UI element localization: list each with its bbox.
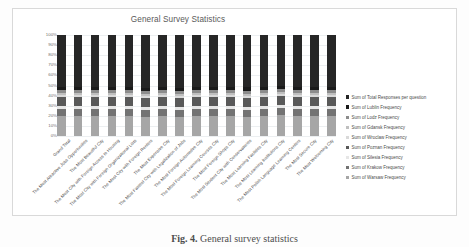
- bar-column[interactable]: [243, 35, 252, 136]
- figure-caption-label: Fig. 4.: [171, 233, 197, 244]
- bar-column[interactable]: [158, 35, 167, 136]
- bar-segment: [209, 116, 218, 136]
- bar-column[interactable]: [209, 35, 218, 136]
- bar-segment: [125, 116, 134, 136]
- legend-item[interactable]: Sum of Lodz Frequency: [346, 112, 458, 122]
- bar-segment: [243, 110, 252, 117]
- bar-segment: [260, 109, 269, 116]
- bar-column[interactable]: [293, 35, 302, 136]
- bar-column[interactable]: [74, 35, 83, 136]
- bar-segment: [158, 97, 167, 106]
- bar-segment: [260, 116, 269, 136]
- bar-segment: [158, 109, 167, 116]
- bar-column[interactable]: [108, 35, 117, 136]
- bar-segment: [57, 116, 66, 136]
- bar-segment: [108, 109, 117, 116]
- bar-segment: [192, 109, 201, 116]
- bar-segment: [125, 109, 134, 116]
- bar-segment: [260, 35, 269, 87]
- y-axis-tick: 100%: [46, 32, 57, 37]
- bar-segment: [293, 116, 302, 136]
- chart-legend: Sum of Total Responses per questionSum o…: [346, 92, 458, 183]
- bar-segment: [158, 35, 167, 87]
- bar-segment: [91, 35, 100, 87]
- bar-segment: [226, 109, 235, 116]
- bar-segment: [74, 116, 83, 136]
- legend-swatch-icon: [346, 176, 349, 179]
- bar-segment: [209, 109, 218, 116]
- legend-label: Sum of Warsaw Frequency: [352, 175, 406, 180]
- bar-segment: [243, 98, 252, 107]
- legend-label: Sum of Total Responses per question: [352, 95, 427, 100]
- bar-column[interactable]: [141, 35, 150, 136]
- bar-segment: [141, 98, 150, 107]
- legend-item[interactable]: Sum of Wroclaw Frequency: [346, 132, 458, 142]
- bar-segment: [327, 116, 336, 136]
- bar-segment: [327, 35, 336, 87]
- legend-swatch-icon: [346, 126, 349, 129]
- bar-segment: [260, 97, 269, 106]
- bar-segment: [327, 97, 336, 106]
- bar-column[interactable]: [91, 35, 100, 136]
- legend-label: Sum of Lodz Frequency: [352, 115, 400, 120]
- legend-item[interactable]: Sum of Total Responses per question: [346, 92, 458, 102]
- legend-item[interactable]: Sum of Silesia Frequency: [346, 153, 458, 163]
- bar-segment: [108, 35, 117, 87]
- bar-column[interactable]: [327, 35, 336, 136]
- chart-title: General Survey Statistics: [13, 15, 343, 24]
- bar-segment: [277, 115, 286, 136]
- bar-segment: [108, 97, 117, 106]
- y-axis-tick: 50%: [48, 82, 57, 87]
- figure-container: General Survey Statistics 100%90%80%70%6…: [0, 0, 469, 247]
- legend-swatch-icon: [346, 156, 349, 159]
- legend-swatch-icon: [346, 116, 349, 119]
- bar-segment: [125, 97, 134, 106]
- legend-item[interactable]: Sum of Gdansk Frequency: [346, 122, 458, 132]
- legend-item[interactable]: Sum of Lublin Frequency: [346, 102, 458, 112]
- legend-label: Sum of Gdansk Frequency: [352, 125, 406, 130]
- legend-label: Sum of Poznan Frequency: [352, 145, 405, 150]
- y-axis-tick: 30%: [48, 102, 57, 107]
- y-axis-tick: 10%: [48, 122, 57, 127]
- bar-segment: [192, 35, 201, 87]
- bar-segment: [91, 97, 100, 106]
- bar-segment: [175, 98, 184, 107]
- y-axis-tick-labels: 100%90%80%70%60%50%40%30%20%10%0%: [27, 33, 57, 136]
- bar-segment: [327, 109, 336, 116]
- bar-column[interactable]: [226, 35, 235, 136]
- bar-series-group: [57, 35, 336, 136]
- bar-segment: [74, 97, 83, 106]
- bar-segment: [209, 35, 218, 87]
- bar-column[interactable]: [125, 35, 134, 136]
- bar-segment: [293, 35, 302, 87]
- bar-column[interactable]: [277, 35, 286, 136]
- bar-segment: [91, 109, 100, 116]
- bar-segment: [91, 116, 100, 136]
- legend-item[interactable]: Sum of Krakow Frequency: [346, 163, 458, 173]
- bar-column[interactable]: [310, 35, 319, 136]
- bar-segment: [74, 35, 83, 87]
- bar-column[interactable]: [192, 35, 201, 136]
- bar-segment: [277, 108, 286, 115]
- legend-item[interactable]: Sum of Warsaw Frequency: [346, 173, 458, 183]
- y-axis-tick: 60%: [48, 72, 57, 77]
- bar-segment: [226, 116, 235, 136]
- y-axis-tick: 20%: [48, 112, 57, 117]
- bar-column[interactable]: [57, 35, 66, 136]
- legend-swatch-icon: [346, 166, 349, 169]
- bar-segment: [125, 35, 134, 87]
- legend-item[interactable]: Sum of Poznan Frequency: [346, 142, 458, 152]
- bar-segment: [57, 109, 66, 116]
- legend-label: Sum of Lublin Frequency: [352, 105, 402, 110]
- chart-frame: General Survey Statistics 100%90%80%70%6…: [12, 8, 457, 216]
- bar-segment: [141, 110, 150, 117]
- bar-segment: [310, 116, 319, 136]
- bar-column[interactable]: [260, 35, 269, 136]
- bar-segment: [175, 110, 184, 117]
- bar-segment: [310, 97, 319, 106]
- gridline: [57, 136, 336, 137]
- bar-segment: [293, 97, 302, 106]
- figure-caption-text: General survey statistics: [200, 233, 298, 244]
- bar-segment: [209, 97, 218, 106]
- bar-column[interactable]: [175, 35, 184, 136]
